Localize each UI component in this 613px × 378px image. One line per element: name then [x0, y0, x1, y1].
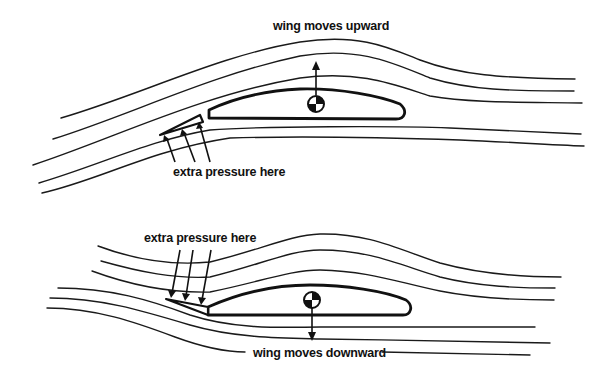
- bottom-panel: wing moves downward extra pressure here: [47, 231, 561, 360]
- cg-marker: [304, 292, 320, 341]
- top-pressure-label: extra pressure here: [173, 165, 285, 179]
- wing-pressure-diagram: wing moves upward extra pressure here: [0, 0, 613, 378]
- bottom-title-label: wing moves downward: [252, 346, 386, 360]
- top-title-label: wing moves upward: [272, 19, 389, 33]
- streamline: [42, 137, 584, 193]
- wing-body: [209, 89, 405, 119]
- streamline: [382, 352, 530, 355]
- cg-marker: [308, 61, 324, 112]
- streamline: [101, 250, 555, 288]
- streamline: [39, 127, 581, 183]
- arrow-down-icon: [308, 332, 316, 341]
- bottom-pressure-label: extra pressure here: [144, 231, 256, 245]
- top-panel: wing moves upward extra pressure here: [33, 19, 584, 193]
- arrow-up-icon: [312, 61, 320, 70]
